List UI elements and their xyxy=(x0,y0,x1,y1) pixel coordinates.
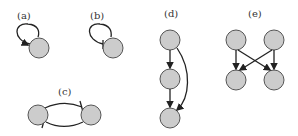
panel-e: (e) xyxy=(226,8,284,90)
panel-c: (c) xyxy=(28,86,101,128)
node-bottom-right xyxy=(264,70,284,90)
node-left xyxy=(28,105,48,125)
inhibition-edge-bottom xyxy=(46,122,83,127)
panel-a: (a) xyxy=(17,10,49,58)
node-top-left xyxy=(226,30,246,50)
node-bottom xyxy=(160,108,180,128)
panel-d: (d) xyxy=(160,8,188,128)
cross-activation-edge xyxy=(240,50,272,70)
diagram-svg: (a) (b) (c) (d) (e) xyxy=(0,0,298,136)
panel-e-label: (e) xyxy=(248,8,262,19)
node-right xyxy=(81,105,101,125)
panel-c-label: (c) xyxy=(58,86,72,97)
panel-a-label: (a) xyxy=(17,10,31,21)
node-top xyxy=(160,30,180,50)
inhibition-edge-top xyxy=(45,103,82,108)
panel-b: (b) xyxy=(89,10,123,58)
cross-activation-edge xyxy=(238,50,270,70)
node-top-right xyxy=(264,30,284,50)
network-motifs-diagram: (a) (b) (c) (d) (e) xyxy=(0,0,298,136)
node xyxy=(29,38,49,58)
panel-b-label: (b) xyxy=(90,10,104,21)
node-bottom-left xyxy=(226,70,246,90)
panel-d-label: (d) xyxy=(164,8,178,19)
node xyxy=(103,38,123,58)
node-middle xyxy=(160,69,180,89)
